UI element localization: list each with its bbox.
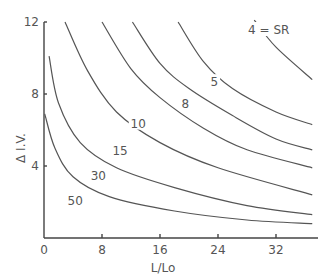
x-tick-label: 24 xyxy=(210,243,225,257)
y-tick-label: 4 xyxy=(31,159,39,173)
curve-10 xyxy=(102,22,312,168)
curve-label: 50 xyxy=(68,194,83,208)
x-tick-label: 16 xyxy=(152,243,167,257)
chart: 081624324812 4 = SR5810153050 L/Lo Δ I.V… xyxy=(0,0,334,279)
y-tick-label: 12 xyxy=(24,15,39,29)
curve-50 xyxy=(45,114,313,224)
ticks: 081624324812 xyxy=(24,15,284,257)
curve-label: 15 xyxy=(112,144,127,158)
curve-8 xyxy=(132,22,312,150)
curve-label: 10 xyxy=(131,117,146,131)
x-axis-label: L/Lo xyxy=(151,261,176,275)
x-tick-label: 0 xyxy=(40,243,48,257)
y-axis-label: Δ I.V. xyxy=(14,133,28,163)
curve-5 xyxy=(178,22,312,125)
curve-label: 8 xyxy=(182,97,190,111)
axes xyxy=(44,22,318,238)
curve-30 xyxy=(49,56,312,214)
curve-label: 4 = SR xyxy=(248,23,289,37)
curve-label: 30 xyxy=(91,169,106,183)
x-tick-label: 8 xyxy=(98,243,106,257)
curve-label: 5 xyxy=(211,75,219,89)
x-tick-label: 32 xyxy=(268,243,283,257)
curves xyxy=(45,20,313,223)
y-tick-label: 8 xyxy=(31,87,39,101)
